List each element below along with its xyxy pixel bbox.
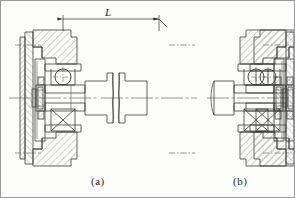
- technical-drawing: [1, 1, 295, 198]
- dimension-label-L: L: [105, 6, 111, 18]
- roller-rolling-element: [51, 109, 75, 131]
- caption-view-a: (a): [91, 175, 105, 187]
- dimension-L: [63, 15, 167, 31]
- figure-canvas: L (a) (b): [0, 0, 295, 198]
- caption-view-b: (b): [233, 175, 247, 187]
